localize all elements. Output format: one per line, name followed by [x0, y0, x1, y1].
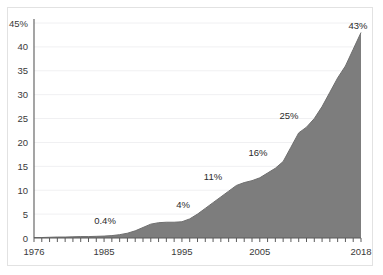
x-axis-tick-labels: 19761985199520052018 [23, 246, 371, 257]
x-tick-label: 1985 [94, 246, 115, 257]
data-label: 0.4% [94, 215, 116, 226]
chart-container: 051015202530354045% 19761985199520052018… [0, 0, 383, 275]
y-tick-label: 30 [17, 89, 28, 100]
y-tick-label: 40 [17, 41, 28, 52]
y-tick-label: 35 [17, 65, 28, 76]
data-label: 25% [279, 110, 299, 121]
y-tick-label: 10 [17, 185, 28, 196]
y-tick-label: 25 [17, 113, 28, 124]
y-tick-label: 45% [9, 18, 29, 29]
area-chart: 051015202530354045% 19761985199520052018… [0, 0, 383, 275]
area-series [34, 33, 361, 238]
data-label: 11% [204, 171, 223, 182]
data-label: 16% [248, 147, 268, 158]
data-label: 4% [176, 199, 190, 210]
x-tick-label: 1995 [171, 246, 192, 257]
y-tick-label: 5 [23, 209, 28, 220]
y-tick-label: 0 [23, 233, 28, 244]
x-axis-ticks [34, 238, 361, 242]
x-tick-label: 1976 [23, 246, 44, 257]
y-tick-label: 15 [17, 161, 28, 172]
x-tick-label: 2018 [350, 246, 371, 257]
area-fill [34, 33, 361, 238]
data-label: 43% [348, 20, 368, 31]
x-tick-label: 2005 [249, 246, 270, 257]
y-axis-tick-labels: 051015202530354045% [9, 18, 29, 244]
y-tick-label: 20 [17, 137, 28, 148]
